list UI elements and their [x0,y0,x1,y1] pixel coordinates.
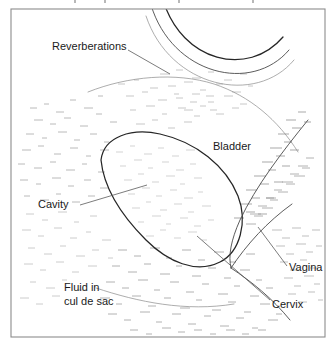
vagina-leader-line [258,227,287,266]
reverberations-leader-line [128,50,170,74]
cavity-leader-line [80,185,147,205]
label-fluid-in-cul-de-sac-line1: Fluid in [64,281,99,293]
label-vagina: Vagina [289,261,323,273]
reverberation-arc-faint [146,16,294,85]
cervix-leader-line [197,236,270,300]
label-reverberations: Reverberations [52,40,127,52]
label-bladder: Bladder [213,140,251,152]
vaginal-wall-line [231,268,290,320]
bladder-anterior-boundary [88,77,298,152]
label-cavity: Cavity [38,198,69,210]
cropped-text-fragments [74,0,254,3]
figure-frame-border [11,9,325,337]
ultrasound-figure: Reverberations Bladder Cavity Fluid in c… [0,0,336,348]
label-cervix: Cervix [272,298,304,310]
ultrasound-diagram-canvas: Reverberations Bladder Cavity Fluid in c… [0,0,336,348]
label-fluid-in-cul-de-sac-line2: cul de sac [64,295,114,307]
reverberation-arc-inner [151,5,289,74]
